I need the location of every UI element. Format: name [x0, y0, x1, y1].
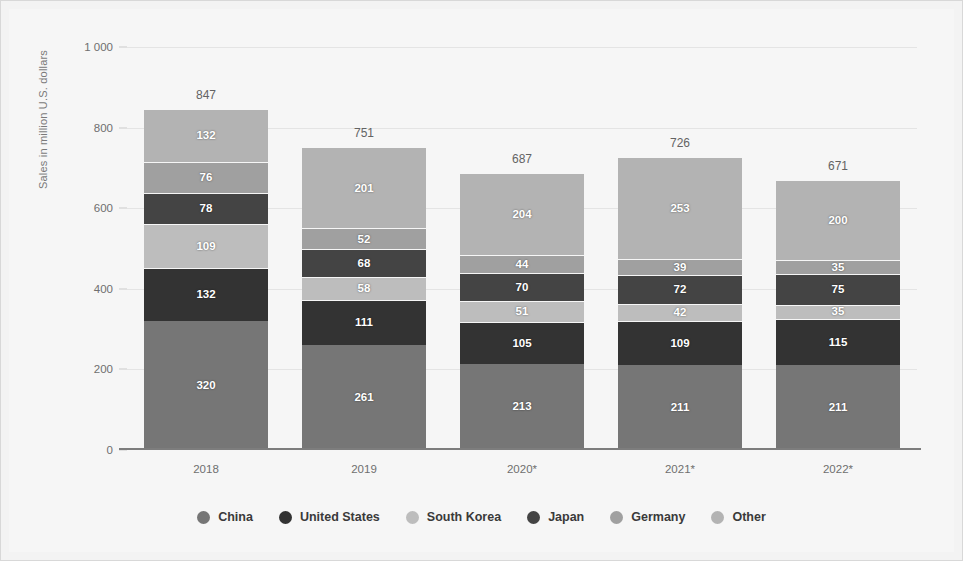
bar-segment[interactable]: 211 [776, 365, 900, 450]
x-axis-tick-label: 2021* [618, 463, 742, 475]
bar-segment-value-label: 72 [674, 284, 687, 296]
chart-inner-panel: Sales in million U.S. dollars 0200400600… [9, 9, 954, 552]
legend-label: China [218, 510, 253, 524]
bar-segment[interactable]: 213 [460, 364, 584, 450]
bar-segment[interactable]: 105 [460, 322, 584, 364]
chart-container: Sales in million U.S. dollars 0200400600… [0, 0, 963, 561]
legend-swatch-icon [406, 511, 419, 524]
bar-segment-value-label: 200 [828, 215, 847, 227]
bar-segment-value-label: 68 [358, 258, 371, 270]
stacked-bar[interactable]: 3201321097876132847 [144, 109, 268, 450]
bar-segment-value-label: 76 [200, 172, 213, 184]
bar-segment-value-label: 204 [512, 209, 531, 221]
y-axis-tick-label: 0 [107, 444, 113, 456]
bar-segment-value-label: 42 [674, 307, 687, 319]
bar-segment[interactable]: 75 [776, 274, 900, 304]
bar-segment[interactable]: 132 [144, 109, 268, 162]
bar-segment[interactable]: 35 [776, 260, 900, 274]
x-axis-line [119, 448, 921, 450]
bar-segment-value-label: 35 [832, 262, 845, 274]
bar-total-label: 726 [618, 136, 742, 150]
legend-label: South Korea [427, 510, 501, 524]
legend-label: Germany [631, 510, 685, 524]
bar-segment[interactable]: 132 [144, 268, 268, 321]
y-axis-tick-mark [119, 127, 127, 128]
bar-segment[interactable]: 201 [302, 147, 426, 228]
bar-segment-value-label: 253 [670, 203, 689, 215]
bar-segment[interactable]: 51 [460, 301, 584, 322]
bar-total-label: 671 [776, 159, 900, 173]
bar-group[interactable]: 2611115868522017512019 [302, 147, 426, 450]
bar-segment[interactable]: 109 [144, 224, 268, 268]
bar-segment-value-label: 132 [196, 130, 215, 142]
bar-segment-value-label: 58 [358, 283, 371, 295]
x-axis-tick-label: 2019 [302, 463, 426, 475]
bar-segment-value-label: 211 [829, 402, 848, 414]
stacked-bar[interactable]: 211109427239253726 [618, 157, 742, 450]
stacked-bar[interactable]: 261111586852201751 [302, 147, 426, 450]
bar-segment-value-label: 52 [358, 234, 371, 246]
bar-total-label: 687 [460, 152, 584, 166]
bar-segment[interactable]: 200 [776, 180, 900, 261]
bar-segment-value-label: 109 [670, 338, 689, 350]
legend-swatch-icon [527, 511, 540, 524]
bar-segment[interactable]: 68 [302, 249, 426, 276]
bar-segment-value-label: 201 [354, 183, 373, 195]
legend-label: Other [732, 510, 765, 524]
bar-segment[interactable]: 52 [302, 228, 426, 249]
legend-item[interactable]: Other [711, 510, 765, 524]
legend-swatch-icon [610, 511, 623, 524]
y-axis-tick-label: 400 [94, 283, 113, 295]
bar-group[interactable]: 32013210978761328472018 [144, 109, 268, 450]
bar-total-label: 847 [144, 88, 268, 102]
bar-segment[interactable]: 253 [618, 157, 742, 259]
stacked-bar[interactable]: 213105517044204687 [460, 173, 584, 450]
y-axis-tick-label: 1 000 [84, 41, 113, 53]
bar-segment[interactable]: 109 [618, 321, 742, 365]
x-axis-tick-label: 2018 [144, 463, 268, 475]
y-axis-tick-label: 800 [94, 122, 113, 134]
bar-segment[interactable]: 204 [460, 173, 584, 255]
legend-item[interactable]: China [197, 510, 253, 524]
legend-item[interactable]: Germany [610, 510, 685, 524]
legend-swatch-icon [197, 511, 210, 524]
bar-segment[interactable]: 70 [460, 273, 584, 301]
legend-label: United States [300, 510, 380, 524]
bar-series-group: 3201321097876132847201826111158685220175… [127, 47, 917, 450]
y-axis-tick-mark [119, 208, 127, 209]
bar-segment-value-label: 261 [354, 392, 373, 404]
bar-segment-value-label: 320 [196, 380, 215, 392]
bar-segment-value-label: 213 [512, 401, 531, 413]
bar-segment-value-label: 35 [832, 306, 845, 318]
bar-segment[interactable]: 261 [302, 345, 426, 450]
bar-segment[interactable]: 39 [618, 259, 742, 275]
bar-group[interactable]: 2131055170442046872020* [460, 173, 584, 450]
bar-segment[interactable]: 320 [144, 321, 268, 450]
x-axis-tick-label: 2022* [776, 463, 900, 475]
legend-swatch-icon [279, 511, 292, 524]
bar-segment[interactable]: 115 [776, 319, 900, 365]
bar-segment[interactable]: 211 [618, 365, 742, 450]
legend-swatch-icon [711, 511, 724, 524]
bar-segment[interactable]: 44 [460, 255, 584, 273]
bar-segment[interactable]: 35 [776, 305, 900, 319]
legend-item[interactable]: Japan [527, 510, 584, 524]
bar-segment[interactable]: 42 [618, 304, 742, 321]
bar-group[interactable]: 2111153575352006712022* [776, 180, 900, 450]
bar-segment[interactable]: 78 [144, 193, 268, 224]
y-axis-tick-label: 200 [94, 363, 113, 375]
bar-segment[interactable]: 72 [618, 275, 742, 304]
bar-segment[interactable]: 58 [302, 277, 426, 300]
legend: ChinaUnited StatesSouth KoreaJapanGerman… [9, 510, 954, 524]
legend-item[interactable]: United States [279, 510, 380, 524]
bar-segment-value-label: 70 [516, 282, 529, 294]
plot-area: 02004006008001 000 320132109787613284720… [127, 47, 917, 450]
y-axis-tick-label: 600 [94, 202, 113, 214]
bar-segment-value-label: 115 [829, 337, 848, 349]
bar-segment[interactable]: 76 [144, 162, 268, 193]
y-axis-title: Sales in million U.S. dollars [37, 9, 49, 189]
bar-group[interactable]: 2111094272392537262021* [618, 157, 742, 450]
bar-segment[interactable]: 111 [302, 300, 426, 345]
stacked-bar[interactable]: 211115357535200671 [776, 180, 900, 450]
legend-item[interactable]: South Korea [406, 510, 501, 524]
